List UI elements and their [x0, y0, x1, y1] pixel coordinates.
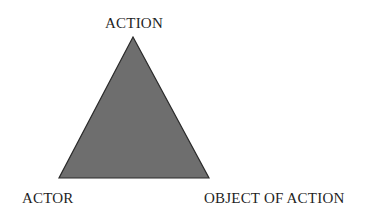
vertex-label-actor: ACTOR — [22, 191, 74, 206]
vertex-label-object-of-action: OBJECT OF ACTION — [204, 191, 344, 206]
action-triangle-diagram: ACTION ACTOR OBJECT OF ACTION — [0, 0, 371, 223]
vertex-label-action: ACTION — [102, 16, 166, 31]
triangle-polygon — [59, 37, 209, 178]
